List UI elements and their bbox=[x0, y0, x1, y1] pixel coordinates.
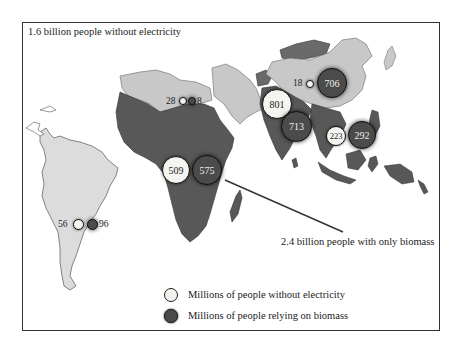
light-circle-icon bbox=[164, 288, 178, 302]
middle-east-shape bbox=[212, 64, 264, 124]
caribbean-shape bbox=[40, 106, 56, 112]
latam-without-value: 56 bbox=[58, 219, 68, 229]
latam-biomass-value: 96 bbox=[99, 219, 109, 229]
south-america-shape bbox=[40, 128, 118, 290]
madagascar-shape bbox=[230, 190, 242, 222]
japan-shape bbox=[384, 46, 396, 70]
legend-label: Millions of people without electricity bbox=[188, 289, 345, 300]
latam-biomass-bubble bbox=[87, 219, 98, 230]
legend-item-biomass: Millions of people relying on biomass bbox=[164, 305, 348, 326]
borneo-shape bbox=[346, 150, 366, 170]
new-guinea-shape bbox=[384, 164, 414, 184]
sea-without-bubble: 223 bbox=[326, 126, 346, 146]
china-without-value: 18 bbox=[293, 78, 303, 88]
sea-biomass-bubble: 292 bbox=[348, 121, 376, 149]
north-africa-biomass-bubble bbox=[188, 97, 196, 105]
pacific-islands-shape bbox=[418, 180, 428, 194]
sri-lanka-shape bbox=[292, 158, 298, 168]
ssa-without-bubble: 509 bbox=[162, 156, 190, 184]
south-asia-biomass-bubble: 713 bbox=[281, 111, 312, 142]
callout-line bbox=[225, 180, 343, 232]
north-africa-without-bubble bbox=[179, 97, 187, 105]
north-africa-without-value: 28 bbox=[166, 96, 176, 106]
dark-circle-icon bbox=[164, 309, 178, 323]
china-biomass-bubble: 706 bbox=[317, 68, 347, 98]
ssa-biomass-bubble: 575 bbox=[192, 155, 222, 185]
china-without-bubble bbox=[306, 80, 314, 88]
map-title: 1.6 billion people without electricity bbox=[28, 26, 181, 37]
north-africa-biomass-value: 8 bbox=[197, 96, 202, 106]
legend-item-without-electricity: Millions of people without electricity bbox=[164, 284, 348, 305]
legend-label: Millions of people relying on biomass bbox=[188, 310, 348, 321]
latam-without-bubble bbox=[73, 219, 84, 230]
callout-text: 2.4 billion people with only biomass bbox=[281, 236, 434, 247]
sulawesi-shape bbox=[368, 156, 378, 172]
central-america-shape bbox=[26, 122, 44, 136]
legend: Millions of people without electricity M… bbox=[164, 284, 348, 326]
